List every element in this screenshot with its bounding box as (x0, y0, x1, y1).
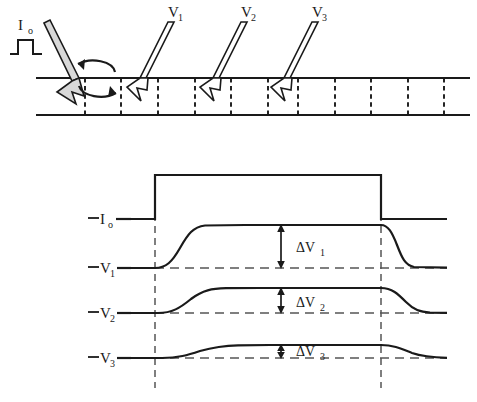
figure-root: I o V 1 (0, 0, 477, 402)
square-pulse-icon (10, 40, 42, 54)
delta-label-v3: ΔV 3 (296, 344, 325, 362)
trace-v1 (131, 225, 447, 268)
waveform-panel: I o V 1 V 2 (88, 175, 447, 388)
axis-label-v1-subscript: 1 (110, 268, 115, 279)
probe-arrow-v3: V 3 (271, 4, 327, 101)
axis-label-v2-subscript: 2 (110, 313, 115, 324)
delta-label-v2: ΔV 2 (296, 295, 325, 313)
delta-label-v1-subscript: 1 (320, 247, 325, 258)
current-source-symbol: I (18, 17, 23, 33)
transmission-line-panel: I o V 1 (10, 4, 470, 115)
axis-labels: I o V 1 V 2 (88, 211, 131, 369)
delta-label-v3-symbol: ΔV (296, 344, 315, 359)
probe-label-v3-subscript: 3 (322, 12, 327, 23)
axis-label-v3: V 3 (88, 350, 131, 369)
delta-label-v3-subscript: 3 (320, 351, 325, 362)
probe-label-v1-subscript: 1 (178, 12, 183, 23)
delta-label-v1-symbol: ΔV (296, 240, 315, 255)
probe-arrow-v2: V 2 (200, 4, 256, 101)
trace-v3 (131, 345, 447, 358)
delta-measure-v1 (277, 224, 285, 269)
probe-label-v2-subscript: 2 (251, 12, 256, 23)
delta-labels: ΔV 1 ΔV 2 ΔV 3 (296, 240, 325, 362)
trace-io (131, 175, 447, 219)
axis-label-io-symbol: I (100, 211, 105, 227)
axis-label-v1: V 1 (88, 260, 131, 279)
delta-label-v2-symbol: ΔV (296, 295, 315, 310)
current-source-subscript: o (28, 25, 33, 36)
axis-label-io: I o (88, 211, 131, 230)
axis-label-io-subscript: o (108, 219, 113, 230)
delta-measure-v3 (277, 344, 285, 359)
current-source-label: I o (18, 17, 33, 36)
delta-measure-v2 (277, 287, 285, 314)
delta-label-v1: ΔV 1 (296, 240, 325, 258)
edge-markers (155, 178, 381, 388)
axis-label-v2: V 2 (88, 305, 131, 324)
delta-label-v2-subscript: 2 (320, 302, 325, 313)
delta-measures (277, 224, 285, 359)
current-injection-arrow (44, 20, 84, 104)
axis-label-v3-subscript: 3 (110, 358, 115, 369)
probe-arrow-v1: V 1 (127, 4, 183, 101)
trace-v2 (131, 288, 447, 313)
physics-figure: I o V 1 (0, 0, 477, 402)
